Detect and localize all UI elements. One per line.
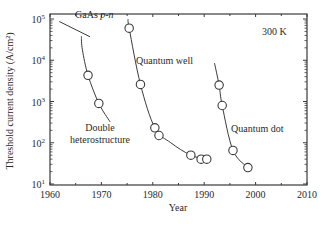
double-heterostructure-label-line2: heterostructure (70, 134, 131, 145)
x-tick-label: 1970 (91, 189, 111, 200)
quantum-well-marker (155, 131, 163, 139)
pn-text: p-n (99, 9, 113, 20)
quantum-well-label: Quantum well (136, 55, 193, 66)
threshold-current-chart: 196019701980199020002010 101102103104105… (0, 0, 332, 227)
y-tick-label: 105 (32, 13, 46, 25)
gaas-pn-label: GaAs p-n (75, 9, 114, 20)
quantum-dot-label: Quantum dot (231, 123, 284, 134)
y-tick-label: 103 (32, 96, 46, 108)
y-tick-label: 102 (32, 137, 46, 149)
x-tick-label: 1990 (194, 189, 214, 200)
double-heterostructure-marker (84, 71, 92, 79)
x-tick-label: 2000 (246, 189, 266, 200)
gaas-p-n-line (59, 21, 90, 36)
quantum-well-marker (187, 151, 195, 159)
y-axis-ticks: 101102103104105 (32, 13, 308, 190)
x-axis-title: Year (169, 202, 188, 213)
quantum-well-marker (125, 24, 133, 32)
quantum-well-marker (203, 155, 211, 163)
x-tick-label: 1980 (143, 189, 163, 200)
quantum-well-marker (136, 80, 144, 88)
data-series (59, 19, 252, 172)
plot-frame (50, 14, 307, 185)
temperature-label: 300 K (262, 26, 288, 37)
gaas-text: GaAs (75, 9, 100, 20)
quantum-well-line (128, 19, 209, 160)
y-tick-label: 104 (32, 54, 46, 66)
quantum-dot-marker (215, 81, 223, 89)
chart-svg: 196019701980199020002010 101102103104105… (0, 0, 332, 227)
quantum-dot-marker (229, 146, 237, 154)
quantum-dot-marker (244, 163, 252, 171)
x-tick-label: 1960 (40, 189, 60, 200)
quantum-well-marker (151, 124, 159, 132)
y-axis-title: Threshold current density (A/cm²) (4, 32, 16, 169)
quantum-dot-marker (218, 101, 226, 109)
axes (50, 14, 307, 185)
double-heterostructure-marker (95, 99, 103, 107)
x-tick-label: 2010 (297, 189, 317, 200)
double-heterostructure-label-line1: Double (85, 122, 115, 133)
